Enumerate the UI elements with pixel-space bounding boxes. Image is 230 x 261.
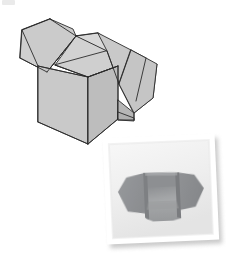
photo-svg	[100, 131, 226, 253]
box-photograph	[100, 131, 226, 253]
figure-container	[0, 0, 230, 261]
box-front-face	[38, 66, 88, 144]
photo-floor-shading	[146, 200, 178, 209]
